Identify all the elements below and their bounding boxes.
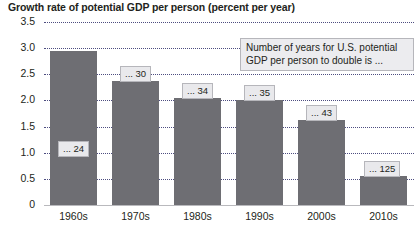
bar-callout-1970s: ... 30 — [120, 66, 151, 82]
gridline-1.0 — [44, 153, 414, 154]
bar-callout-1990s: ... 35 — [244, 85, 275, 101]
gridline-1.5 — [44, 127, 414, 128]
bar-callout-1960s: ... 24 — [58, 141, 89, 157]
annotation-callout: Number of years for U.S. potential GDP p… — [240, 38, 414, 71]
chart-title: Growth rate of potential GDP per person … — [8, 1, 295, 13]
y-axis-label-2.0: 2.0 — [0, 93, 35, 105]
gridline-2.0 — [44, 100, 414, 101]
bar-callout-1980s: ... 34 — [182, 83, 213, 99]
annotation-line-2: GDP per person to double is ... — [246, 54, 409, 67]
bar-2010s[interactable] — [360, 176, 407, 205]
y-axis-label-1.5: 1.5 — [0, 120, 35, 132]
x-axis-label-2010s: 2010s — [349, 210, 419, 222]
y-axis-label-0: 0 — [0, 198, 35, 210]
bar-1990s[interactable] — [236, 100, 283, 205]
y-axis-label-2.5: 2.5 — [0, 67, 35, 79]
bar-1970s[interactable] — [112, 81, 159, 205]
chart-figure: Growth rate of potential GDP per person … — [0, 0, 419, 238]
gridline-3.5 — [44, 22, 414, 23]
x-axis-label-2000s: 2000s — [287, 210, 357, 222]
x-axis-label-1960s: 1960s — [39, 210, 109, 222]
gridline-2.5 — [44, 74, 414, 75]
y-axis-label-3.5: 3.5 — [0, 15, 35, 27]
gridline-0.5 — [44, 179, 414, 180]
y-axis-label-3.0: 3.0 — [0, 41, 35, 53]
x-axis-label-1970s: 1970s — [101, 210, 171, 222]
annotation-line-1: Number of years for U.S. potential — [246, 41, 409, 54]
x-axis-baseline — [44, 205, 414, 206]
bar-1980s[interactable] — [174, 98, 221, 205]
y-axis-label-0.5: 0.5 — [0, 172, 35, 184]
bar-1960s[interactable] — [50, 51, 97, 205]
x-axis-label-1990s: 1990s — [225, 210, 295, 222]
x-axis-label-1980s: 1980s — [163, 210, 233, 222]
y-axis-label-1.0: 1.0 — [0, 146, 35, 158]
bar-callout-2000s: ... 43 — [306, 105, 337, 121]
bar-2000s[interactable] — [298, 120, 345, 205]
bar-callout-2010s: ... 125 — [364, 161, 400, 177]
